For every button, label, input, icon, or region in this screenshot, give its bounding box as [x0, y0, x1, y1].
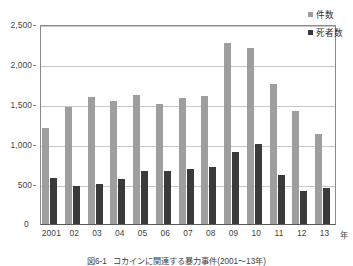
bar-group — [41, 26, 64, 224]
y-tick-mark — [33, 145, 36, 146]
bar-group — [200, 26, 223, 224]
x-tick-label: 08 — [206, 228, 216, 238]
bar-group — [314, 26, 337, 224]
bar-deaths — [73, 186, 80, 224]
bar-group — [132, 26, 155, 224]
bar-group — [109, 26, 132, 224]
x-tick-label: 04 — [115, 228, 125, 238]
bar-deaths — [278, 175, 285, 224]
x-tick-label: 13 — [320, 228, 330, 238]
y-tick-mark — [33, 65, 36, 66]
bars-layer — [41, 26, 335, 224]
bar-deaths — [96, 184, 103, 224]
legend-swatch-cases-icon — [308, 12, 313, 17]
x-tick-label: 06 — [160, 228, 170, 238]
bar-cases — [247, 48, 254, 224]
bar-group — [291, 26, 314, 224]
legend-item-deaths: 死者数 — [308, 26, 343, 38]
bar-cases — [315, 134, 322, 224]
bar-deaths — [50, 178, 57, 224]
y-tick-label-zero: 0 — [24, 219, 29, 229]
legend-item-cases: 件数 — [308, 8, 343, 20]
bar-cases — [42, 128, 49, 224]
x-tick-label: 03 — [92, 228, 102, 238]
bar-group — [269, 26, 292, 224]
legend-label-deaths: 死者数 — [316, 26, 343, 38]
bar-cases — [201, 96, 208, 224]
x-tick-label: 10 — [252, 228, 262, 238]
x-axis-unit-label: 年 — [340, 228, 348, 240]
y-tick-mark — [33, 185, 36, 186]
bar-cases — [179, 98, 186, 224]
bar-cases — [110, 101, 117, 224]
bar-cases — [156, 104, 163, 224]
figure-cocaine-violence-chart: 5001,0001,5002,0002,500 0 20010203040506… — [0, 0, 353, 266]
bar-deaths — [232, 152, 239, 224]
caption-number: 図6-1 — [87, 257, 107, 266]
y-tick-label: 1,000 — [11, 140, 32, 150]
x-tick-label: 12 — [297, 228, 307, 238]
x-tick-label: 02 — [69, 228, 79, 238]
y-tick-mark — [33, 25, 36, 26]
bar-deaths — [255, 144, 262, 224]
plot-area — [40, 25, 336, 225]
x-tick-label: 11 — [275, 228, 284, 238]
bar-cases — [270, 84, 277, 224]
bar-deaths — [118, 179, 125, 224]
bar-group — [87, 26, 110, 224]
bar-group — [223, 26, 246, 224]
y-tick-label: 500 — [18, 180, 32, 190]
bar-deaths — [300, 191, 307, 224]
x-tick-label: 05 — [138, 228, 148, 238]
bar-deaths — [209, 167, 216, 224]
bar-cases — [133, 95, 140, 224]
x-tick-label: 07 — [183, 228, 193, 238]
bar-cases — [88, 97, 95, 224]
caption-text: コカインに関連する暴力事件(2001～13年) — [113, 257, 266, 266]
legend-label-cases: 件数 — [316, 8, 334, 20]
figure-caption: 図6-1 コカインに関連する暴力事件(2001～13年) — [0, 254, 353, 266]
bar-cases — [292, 111, 299, 224]
x-tick-label: 09 — [229, 228, 239, 238]
y-tick-label: 1,500 — [11, 100, 32, 110]
y-tick-label: 2,500 — [11, 20, 32, 30]
legend: 件数 死者数 — [308, 8, 343, 38]
legend-swatch-deaths-icon — [308, 30, 313, 35]
bar-deaths — [141, 171, 148, 224]
bar-cases — [65, 107, 72, 224]
bar-group — [246, 26, 269, 224]
bar-group — [155, 26, 178, 224]
bar-deaths — [187, 169, 194, 224]
x-axis: 2001020304050607080910111213 — [40, 228, 336, 242]
bar-group — [64, 26, 87, 224]
y-tick-mark — [33, 105, 36, 106]
bar-group — [178, 26, 201, 224]
x-tick-label: 2001 — [42, 228, 61, 238]
bar-deaths — [323, 188, 330, 224]
bar-deaths — [164, 171, 171, 224]
y-tick-label: 2,000 — [11, 60, 32, 70]
bar-cases — [224, 43, 231, 224]
y-axis: 5001,0001,5002,0002,500 — [0, 25, 36, 225]
